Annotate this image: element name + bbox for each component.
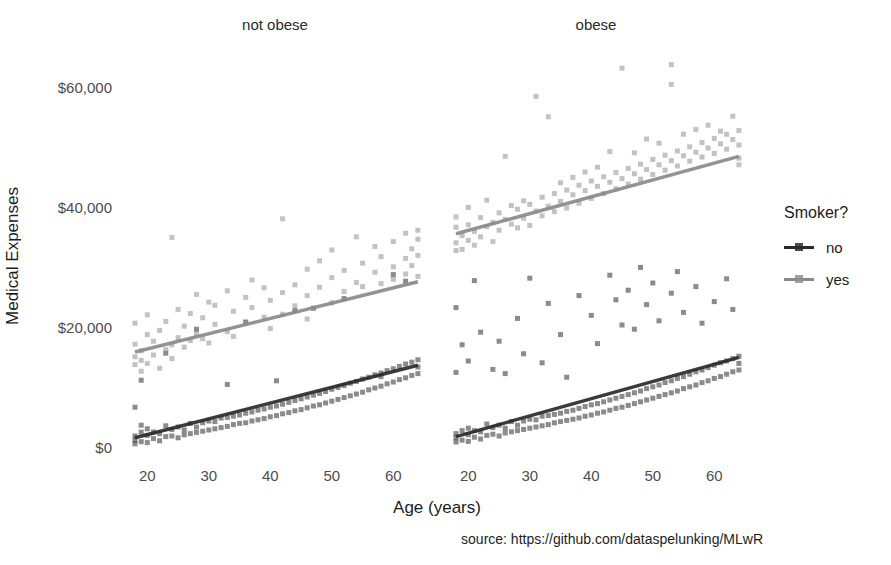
y-axis-label: Medical Expenses: [3, 146, 23, 366]
x-tick-label: 60: [699, 468, 729, 484]
x-tick-label: 20: [453, 468, 483, 484]
legend-key-yes-line-icon: [784, 269, 814, 289]
x-tick-label: 30: [515, 468, 545, 484]
x-tick-label: 60: [378, 468, 408, 484]
x-tick-label: 30: [194, 468, 224, 484]
source-caption: source: https://github.com/dataspelunkin…: [363, 531, 763, 547]
legend-label-yes: yes: [826, 271, 849, 288]
legend-key-no-line-icon: [784, 237, 814, 257]
y-tick-label: $0: [42, 440, 112, 456]
x-axis-label: Age (years): [287, 498, 587, 518]
figure: not obese obese Medical Expenses $0$20,0…: [0, 0, 891, 565]
x-tick-label: 20: [132, 468, 162, 484]
legend-label-no: no: [826, 239, 843, 256]
legend-entry-yes: yes: [784, 269, 888, 289]
x-tick-label: 50: [317, 468, 347, 484]
y-tick-label: $60,000: [42, 80, 112, 96]
legend: Smoker? no yes: [784, 203, 888, 301]
x-tick-label: 40: [255, 468, 285, 484]
x-tick-label: 40: [576, 468, 606, 484]
legend-title: Smoker?: [784, 203, 888, 223]
facet-title-not-obese: not obese: [128, 16, 422, 34]
legend-entry-no: no: [784, 237, 888, 257]
facet-title-obese: obese: [449, 16, 743, 34]
y-tick-label: $20,000: [42, 320, 112, 336]
y-tick-label: $40,000: [42, 200, 112, 216]
x-tick-label: 50: [638, 468, 668, 484]
